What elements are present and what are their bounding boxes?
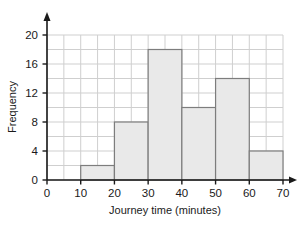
chart-canvas: 010203040506070048121620 Journey time (m…: [0, 0, 300, 232]
histogram-bar: [182, 108, 216, 181]
x-tick-label: 10: [74, 187, 87, 199]
y-axis-title: Frequency: [6, 81, 18, 133]
histogram-bar: [249, 151, 283, 180]
x-axis-title: Journey time (minutes): [109, 204, 221, 216]
y-axis-arrow-icon: [44, 12, 51, 21]
x-tick-label: 40: [175, 187, 188, 199]
x-tick-label: 50: [209, 187, 222, 199]
y-tick-label: 0: [32, 174, 38, 186]
bar-series: [81, 50, 283, 181]
histogram-bar: [114, 122, 148, 180]
y-tick-label: 20: [25, 29, 38, 41]
y-tick-label: 4: [32, 145, 39, 157]
y-tick-label: 16: [25, 58, 38, 70]
x-tick-label: 20: [108, 187, 121, 199]
histogram-bar: [216, 79, 250, 181]
x-axis-arrow-icon: [289, 177, 297, 184]
y-tick-label: 12: [25, 87, 38, 99]
x-tick-label: 70: [277, 187, 290, 199]
x-tick-label: 30: [142, 187, 155, 199]
x-tick-label: 60: [243, 187, 256, 199]
histogram-bar: [81, 166, 115, 181]
histogram-bar: [148, 50, 182, 181]
y-tick-label: 8: [32, 116, 38, 128]
x-tick-label: 0: [44, 187, 50, 199]
histogram-chart: 010203040506070048121620 Journey time (m…: [0, 0, 300, 232]
